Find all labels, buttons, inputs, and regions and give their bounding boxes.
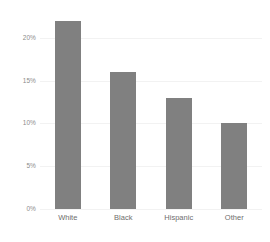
bar-slot bbox=[40, 12, 96, 209]
bar-slot bbox=[207, 12, 263, 209]
bar-chart: 0%5%10%15%20% WhiteBlackHispanicOther bbox=[0, 0, 270, 242]
x-axis-label-other: Other bbox=[225, 214, 244, 222]
y-axis-tick-label: 0% bbox=[10, 206, 36, 213]
x-axis-label-white: White bbox=[58, 214, 77, 222]
bar-slot bbox=[96, 12, 152, 209]
gridline bbox=[40, 209, 262, 210]
bar-white[interactable] bbox=[55, 21, 81, 209]
bar-hispanic[interactable] bbox=[166, 98, 192, 209]
y-axis-tick-label: 15% bbox=[10, 77, 36, 84]
bar-black[interactable] bbox=[110, 72, 136, 209]
y-axis-tick-label: 20% bbox=[10, 34, 36, 41]
bar-slot bbox=[151, 12, 207, 209]
x-axis-label-hispanic: Hispanic bbox=[164, 214, 193, 222]
y-axis-tick-label: 10% bbox=[10, 120, 36, 127]
y-axis-tick-label: 5% bbox=[10, 163, 36, 170]
bar-other[interactable] bbox=[221, 123, 247, 209]
plot-area bbox=[40, 12, 262, 209]
x-axis-label-black: Black bbox=[114, 214, 132, 222]
